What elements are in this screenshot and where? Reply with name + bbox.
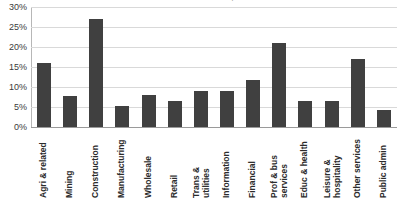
- x-axis-tick: Manufacturing: [109, 129, 135, 198]
- bar[interactable]: [272, 43, 286, 127]
- bar[interactable]: [142, 95, 156, 127]
- x-axis-tick-label: Prof & bus services: [270, 129, 289, 198]
- bar[interactable]: [377, 110, 391, 127]
- y-axis-tick-label: 5%: [14, 103, 27, 112]
- bar[interactable]: [325, 101, 339, 127]
- x-axis-line: [31, 127, 397, 128]
- bar-slot: [136, 7, 162, 127]
- bar[interactable]: [194, 91, 208, 127]
- x-axis-tick-label: Public admin: [379, 129, 389, 198]
- x-axis-tick-label: Information: [222, 129, 232, 198]
- x-axis-tick: Agri & related: [31, 129, 57, 198]
- x-axis-tick-label: Financial: [248, 129, 258, 198]
- x-axis-tick: Leisure & hospitality: [319, 129, 345, 198]
- bar[interactable]: [246, 80, 260, 127]
- bar-slot: [345, 7, 371, 127]
- bar[interactable]: [298, 101, 312, 127]
- x-axis-tick-label: Trans & utilities: [191, 129, 210, 198]
- bar-slot: [266, 7, 292, 127]
- bar[interactable]: [63, 96, 77, 127]
- x-axis-tick: Construction: [83, 129, 109, 198]
- plot-area: [31, 7, 397, 127]
- y-axis-tick-label: 25%: [9, 23, 27, 32]
- bar-slot: [83, 7, 109, 127]
- x-axis-tick-label: Agri & related: [39, 129, 49, 198]
- x-axis-tick: Trans & utilities: [188, 129, 214, 198]
- x-axis-tick-label: Educ & health: [301, 129, 311, 198]
- x-axis-tick: Information: [214, 129, 240, 198]
- bar-slot: [292, 7, 318, 127]
- bar-slot: [57, 7, 83, 127]
- bar[interactable]: [220, 91, 234, 127]
- bar-slot: [319, 7, 345, 127]
- y-axis-tick-label: 20%: [9, 43, 27, 52]
- x-axis-tick-label: Wholesale: [144, 129, 154, 198]
- bar-slot: [214, 7, 240, 127]
- x-axis-tick-label: Mining: [65, 129, 75, 198]
- y-axis-tick-label: 15%: [9, 63, 27, 72]
- x-axis-tick-label: Manufacturing: [118, 129, 128, 198]
- x-axis-tick: Retail: [162, 129, 188, 198]
- x-axis-tick-label: Other services: [353, 129, 363, 198]
- y-axis-tick-label: 0%: [14, 123, 27, 132]
- x-axis: Agri & relatedMiningConstructionManufact…: [31, 129, 397, 198]
- y-axis-tick-label: 10%: [9, 83, 27, 92]
- bar[interactable]: [115, 106, 129, 127]
- x-axis-tick: Financial: [240, 129, 266, 198]
- y-axis-tick-label: 30%: [9, 3, 27, 12]
- x-axis-tick: Educ & health: [292, 129, 318, 198]
- x-axis-tick-label: Leisure & hospitality: [322, 129, 341, 198]
- bar[interactable]: [168, 101, 182, 127]
- bar[interactable]: [89, 19, 103, 127]
- x-axis-tick: Public admin: [371, 129, 397, 198]
- bar[interactable]: [37, 63, 51, 127]
- bar-slot: [162, 7, 188, 127]
- bar-slot: [31, 7, 57, 127]
- x-axis-tick-label: Retail: [170, 129, 180, 198]
- bar[interactable]: [351, 59, 365, 127]
- x-axis-tick: Prof & bus services: [266, 129, 292, 198]
- bar-slot: [109, 7, 135, 127]
- bar-slot: [188, 7, 214, 127]
- x-axis-tick: Wholesale: [136, 129, 162, 198]
- x-axis-tick: Other services: [345, 129, 371, 198]
- x-axis-tick-label: Construction: [92, 129, 102, 198]
- bar-slot: [371, 7, 397, 127]
- bars-group: [31, 7, 397, 127]
- chart-title: Share of businesses, 2015: [0, 0, 400, 2]
- y-axis: 30%25%20%15%10%5%0%: [0, 0, 30, 132]
- bar-chart: Share of businesses, 2015 30%25%20%15%10…: [0, 0, 400, 198]
- bar-slot: [240, 7, 266, 127]
- x-axis-tick: Mining: [57, 129, 83, 198]
